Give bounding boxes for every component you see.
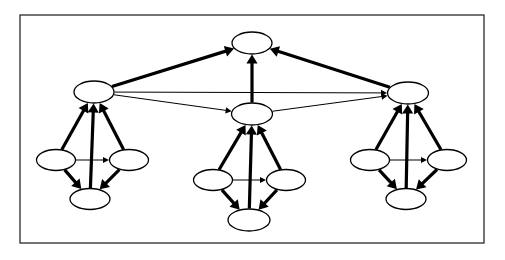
node-left-cluster-south[interactable] [70, 189, 110, 210]
diagram-svg [0, 0, 505, 260]
node-left-cluster-east[interactable] [110, 150, 149, 171]
diagram-canvas [0, 0, 505, 260]
node-center-cluster-west[interactable] [194, 170, 233, 191]
node-mid-left[interactable] [74, 81, 114, 103]
edge-shaft [249, 133, 251, 208]
edge-shaft [406, 112, 407, 188]
node-center-cluster-south[interactable] [228, 209, 270, 231]
node-root[interactable] [232, 32, 272, 54]
node-left-cluster-west[interactable] [37, 150, 76, 171]
node-mid-center[interactable] [232, 103, 273, 125]
node-right-cluster-east[interactable] [428, 150, 467, 171]
node-center-cluster-east[interactable] [267, 170, 306, 191]
node-right-cluster-south[interactable] [386, 189, 426, 210]
node-right-cluster-west[interactable] [351, 150, 390, 171]
node-mid-right[interactable] [388, 82, 429, 104]
